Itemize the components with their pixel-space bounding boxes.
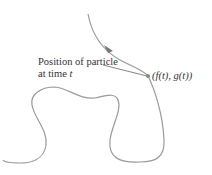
particle-path-curve [3,14,164,163]
point-coordinates-label: (f(t), g(t)) [152,70,192,82]
label-position-of-particle: Position of particle at time t [38,56,118,80]
particle-point [146,74,150,78]
time-variable: t [70,68,73,79]
label-line-2: at time [38,68,70,79]
parametric-curve-diagram [0,0,212,175]
label-line-1: Position of particle [38,56,118,67]
